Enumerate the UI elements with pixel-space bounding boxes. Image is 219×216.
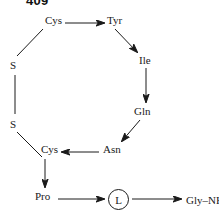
figure-canvas: 409 Cys Tyr Ile Gln Asn (0, 0, 219, 216)
diagram-edges (0, 0, 219, 216)
bond-sulfur-bottom-cys2 (17, 132, 42, 157)
sulfur-atom-bottom: S (10, 118, 16, 130)
terminal-gly-amide-text: Gly–NH (186, 194, 219, 206)
residue-cys-2: Cys (41, 143, 58, 155)
residue-pro: Pro (35, 190, 50, 202)
sulfur-atom-top: S (10, 59, 16, 71)
residue-asn: Asn (103, 143, 121, 155)
bond-cys1-sulfur-top (17, 29, 43, 56)
residue-leu-label: L (115, 194, 122, 206)
residue-leu-circled: L (108, 189, 129, 210)
terminal-gly-amide: Gly–NH2 (186, 194, 219, 209)
residue-ile: Ile (139, 54, 151, 66)
edge-tyr-ile (115, 29, 137, 52)
residue-cys-1: Cys (45, 14, 62, 26)
residue-gln: Gln (134, 105, 151, 117)
residue-tyr: Tyr (107, 14, 122, 26)
edge-gln-asn (122, 120, 140, 141)
